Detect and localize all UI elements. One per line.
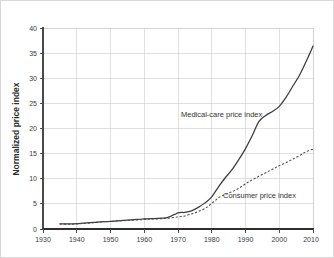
y-tick-label: 25	[29, 100, 37, 107]
y-tick-label: 5	[33, 200, 37, 207]
line-chart: 40 35 30 25 20 15 10 5 0 1930 1940 1950 …	[1, 1, 334, 258]
x-tick-label: 1930	[35, 236, 51, 243]
y-tick-label: 35	[29, 50, 37, 57]
y-axis-title: Normalized price index	[11, 82, 21, 175]
annotation-medical-care-price-index: Medical-care price index	[181, 110, 263, 119]
y-tick-label: 0	[33, 226, 37, 233]
chart-figure: 40 35 30 25 20 15 10 5 0 1930 1940 1950 …	[0, 0, 334, 258]
x-tick-label: 1960	[136, 236, 152, 243]
x-tick-label: 1990	[238, 236, 254, 243]
y-tick-label: 10	[29, 175, 37, 182]
y-axis-tick-labels: 40 35 30 25 20 15 10 5 0	[29, 25, 37, 233]
x-tick-label: 2010	[303, 236, 319, 243]
y-tick-label: 20	[29, 125, 37, 132]
x-tick-label: 1980	[204, 236, 220, 243]
y-tick-label: 40	[29, 25, 37, 32]
x-tick-label: 2000	[271, 236, 287, 243]
x-tick-label: 1970	[170, 236, 186, 243]
y-tick-label: 30	[29, 75, 37, 82]
x-tick-label: 1950	[103, 236, 119, 243]
x-axis-tick-labels: 1930 1940 1950 1960 1970 1980 1990 2000 …	[35, 236, 319, 243]
x-tick-label: 1940	[69, 236, 85, 243]
series-line-consumer-price	[60, 149, 313, 224]
annotation-consumer-price-index: Consumer price index	[223, 191, 296, 200]
y-tick-label: 15	[29, 150, 37, 157]
